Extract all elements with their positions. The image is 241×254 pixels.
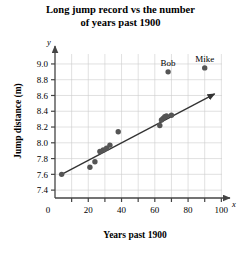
svg-text:y: y xyxy=(46,37,51,47)
svg-text:Mike: Mike xyxy=(195,54,214,64)
svg-text:x: x xyxy=(231,199,236,209)
svg-text:80: 80 xyxy=(184,205,194,215)
chart-container: Long jump record vs the number of years … xyxy=(0,0,241,254)
svg-text:Bob: Bob xyxy=(161,58,177,68)
svg-text:0: 0 xyxy=(46,205,51,215)
svg-text:7.6: 7.6 xyxy=(37,170,49,180)
svg-text:60: 60 xyxy=(150,205,160,215)
svg-text:8.0: 8.0 xyxy=(37,138,49,148)
svg-text:8.8: 8.8 xyxy=(37,75,49,85)
svg-text:7.8: 7.8 xyxy=(37,154,49,164)
svg-text:9.0: 9.0 xyxy=(37,59,49,69)
svg-text:40: 40 xyxy=(117,205,127,215)
svg-text:20: 20 xyxy=(84,205,94,215)
data-points xyxy=(59,65,207,177)
svg-text:100: 100 xyxy=(215,205,229,215)
svg-text:7.4: 7.4 xyxy=(37,185,49,195)
axis-ticks xyxy=(51,64,221,202)
gridlines xyxy=(55,54,222,198)
svg-text:8.4: 8.4 xyxy=(37,106,49,116)
svg-text:8.2: 8.2 xyxy=(37,122,48,132)
svg-text:8.6: 8.6 xyxy=(37,91,49,101)
scatter-plot: 7.47.67.88.08.28.48.68.89.0204060801000y… xyxy=(0,0,241,254)
